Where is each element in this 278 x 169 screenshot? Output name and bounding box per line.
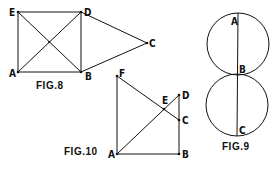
figure-10: F E D C A B FIG.10 [64,68,189,160]
point-label-B: B [239,64,246,75]
point-label-A: A [231,16,238,27]
point-label-A: A [108,149,115,160]
point-label-E: E [9,7,15,18]
segment-BC [81,43,147,72]
point-label-D: D [182,90,189,101]
point-label-B: B [85,71,92,82]
segment-AC [237,13,238,136]
geometry-diagrams: E D A B C FIG.8 A B C FIG.9 F E D C A B … [0,0,278,169]
figure-9: A B C FIG.9 [206,13,269,152]
point-label-B: B [182,149,189,160]
segment-AD [117,95,179,154]
point-label-A: A [9,68,16,79]
point-label-D: D [84,7,91,18]
point-label-E: E [162,95,168,106]
point-label-C: C [149,38,156,49]
figure-caption-8: FIG.8 [36,80,64,91]
figure-caption-10: FIG.10 [64,146,98,157]
point-label-C: C [182,115,189,126]
segment-FC [117,76,179,120]
point-label-C: C [239,125,246,136]
figure-caption-9: FIG.9 [222,141,250,152]
figure-8: E D A B C FIG.8 [9,7,156,91]
point-label-F: F [119,68,125,79]
